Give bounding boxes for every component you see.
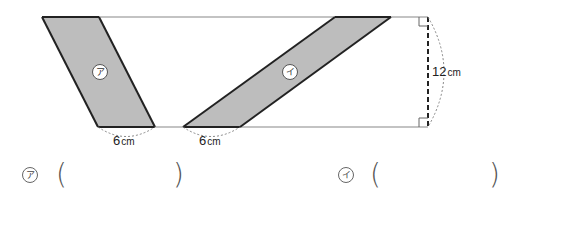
label-b-marker: イ	[282, 64, 298, 80]
height-dimension: 12cm	[432, 64, 461, 79]
answer-a-open-paren: (	[56, 158, 67, 191]
base-a-dimension: 6cm	[113, 133, 135, 148]
answer-a-label: ア	[22, 167, 38, 183]
answer-b-label: イ	[338, 167, 354, 183]
answer-b-close-paren: )	[489, 158, 500, 191]
label-a-marker: ア	[92, 64, 108, 80]
answer-b-open-paren: (	[370, 158, 381, 191]
answer-b-field[interactable]	[390, 163, 485, 187]
answer-a-field[interactable]	[75, 163, 170, 187]
answer-a-close-paren: )	[173, 158, 184, 191]
base-b-dimension: 6cm	[199, 133, 221, 148]
